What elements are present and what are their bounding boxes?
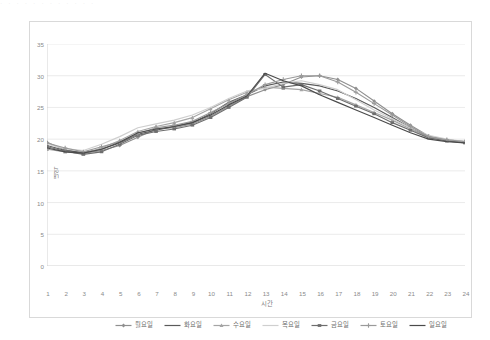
data-point-marker (354, 105, 358, 108)
x-axis-tick-label: 18 (350, 290, 364, 297)
y-axis-tick-label: 35 (26, 41, 44, 48)
legend-item-금요일[interactable]: 금요일 (311, 321, 349, 329)
legend-item-일요일[interactable]: 일요일 (409, 321, 447, 329)
legend-label: 금요일 (331, 321, 349, 329)
legend-label: 토요일 (380, 321, 398, 329)
legend-item-월요일[interactable]: 월요일 (115, 321, 153, 329)
y-axis-tick-label: 20 (26, 136, 44, 143)
series-line (47, 81, 465, 151)
x-axis-tick-label: 1 (41, 290, 55, 297)
x-axis-tick-label: 9 (186, 290, 200, 297)
x-axis-tick-label: 5 (114, 290, 128, 297)
x-axis-tick-label: 2 (59, 290, 73, 297)
chart-legend: 월요일화요일수요일목요일금요일토요일일요일 (59, 321, 490, 329)
plot-area (47, 44, 465, 266)
x-axis-tick-label: 13 (259, 290, 273, 297)
line-chart-svg (47, 44, 465, 266)
x-axis-tick-label: 22 (423, 290, 437, 297)
y-axis-tick-label: 15 (26, 168, 44, 175)
data-point-marker (172, 128, 176, 131)
series-line (47, 76, 465, 153)
y-axis-tick-label: 25 (26, 104, 44, 111)
x-axis-tick-label: 17 (332, 290, 346, 297)
legend-label: 월요일 (135, 321, 153, 329)
data-point-marker (366, 323, 370, 327)
legend-marker-icon (311, 322, 328, 329)
data-point-marker (391, 121, 395, 124)
x-axis-tick-label: 23 (441, 290, 455, 297)
x-axis-tick-label: 3 (77, 290, 91, 297)
legend-marker-icon (213, 322, 230, 329)
x-axis-tick-label: 20 (386, 290, 400, 297)
x-axis-tick-label: 8 (168, 290, 182, 297)
series-목요일 (47, 81, 465, 151)
x-axis-tick-label: 6 (132, 290, 146, 297)
x-axis-title: 시간 (30, 299, 490, 308)
y-axis-tick-label: 30 (26, 73, 44, 80)
data-point-marker (336, 97, 340, 100)
legend-item-수요일[interactable]: 수요일 (213, 321, 251, 329)
x-axis-tick-label: 16 (314, 290, 328, 297)
legend-item-토요일[interactable]: 토요일 (360, 321, 398, 329)
legend-label: 화요일 (184, 321, 202, 329)
x-axis-tick-label: 12 (241, 290, 255, 297)
x-axis-tick-label: 11 (223, 290, 237, 297)
x-axis-tick-label: 21 (404, 290, 418, 297)
data-point-marker (372, 112, 376, 115)
x-axis-tick-label: 10 (205, 290, 219, 297)
data-point-marker (100, 150, 104, 153)
legend-label: 수요일 (233, 321, 251, 329)
legend-item-화요일[interactable]: 화요일 (164, 321, 202, 329)
data-point-marker (209, 116, 213, 119)
series-line (47, 74, 465, 154)
x-axis-tick-label: 15 (295, 290, 309, 297)
x-axis-tick-label: 19 (368, 290, 382, 297)
legend-label: 일요일 (429, 321, 447, 329)
x-axis-tick-label: 14 (277, 290, 291, 297)
data-point-marker (281, 86, 285, 89)
y-axis-tick-label: 10 (26, 200, 44, 207)
x-axis-tick-label: 4 (96, 290, 110, 297)
legend-marker-icon (360, 322, 377, 329)
data-point-marker (317, 324, 321, 327)
y-axis-tick-label: 5 (26, 231, 44, 238)
data-point-marker (317, 74, 321, 78)
data-point-marker (121, 323, 125, 327)
x-axis-title-text: 시간 (261, 300, 273, 307)
legend-marker-icon (164, 322, 181, 329)
legend-label: 목요일 (282, 321, 300, 329)
chart-page: · · · · · · · · · · · · 05101520253035 1… (0, 0, 490, 340)
x-axis-tick-label: 7 (150, 290, 164, 297)
data-point-marker (227, 106, 231, 109)
x-axis-tick-label: 24 (459, 290, 473, 297)
top-faint-text: · · · · · · · · · · · · (0, 0, 490, 10)
y-axis-tick-label: 0 (26, 263, 44, 270)
legend-marker-icon (409, 322, 426, 329)
data-point-marker (318, 90, 322, 93)
data-point-marker (154, 130, 158, 133)
legend-item-목요일[interactable]: 목요일 (262, 321, 300, 329)
legend-marker-icon (115, 322, 132, 329)
legend-marker-icon (262, 322, 279, 329)
data-point-marker (191, 124, 195, 127)
data-point-marker (409, 129, 413, 132)
